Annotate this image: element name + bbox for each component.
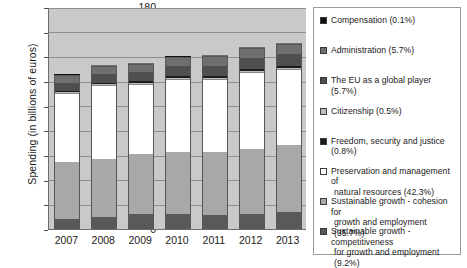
gridline <box>49 8 306 9</box>
bar-segment-competitiveness[interactable] <box>54 219 80 229</box>
bar-segment-global-player[interactable] <box>128 72 154 81</box>
legend-label: Compensation (0.1%) <box>331 15 415 26</box>
x-axis-tick-label: 2013 <box>266 234 310 246</box>
legend-swatch-icon <box>320 47 327 54</box>
bar-segment-cohesion[interactable] <box>128 154 154 214</box>
bar-segment-competitiveness[interactable] <box>128 214 154 229</box>
bar-segment-natural-resources[interactable] <box>202 79 228 152</box>
legend-swatch-icon <box>320 17 327 24</box>
bar-segment-administration[interactable] <box>239 47 265 58</box>
legend-label: The EU as a global player (5.7%) <box>331 75 455 96</box>
y-axis-title: Spending (in billions of euros) <box>26 14 38 214</box>
legend-label: Sustainable growth - competitivenessfor … <box>331 226 455 268</box>
legend-swatch-icon <box>320 77 327 84</box>
bar-segment-administration[interactable] <box>276 43 302 54</box>
bar-segment-competitiveness[interactable] <box>202 215 228 229</box>
legend-label: Administration (5.7%) <box>331 45 414 56</box>
bar-segment-competitiveness[interactable] <box>165 214 191 229</box>
bar-segment-administration[interactable] <box>165 57 191 67</box>
bar-segment-cohesion[interactable] <box>91 159 117 218</box>
legend-item[interactable]: Preservation and management ofnatural re… <box>320 166 455 196</box>
bar-segment-cohesion[interactable] <box>276 145 302 212</box>
bar-2012[interactable] <box>239 47 265 229</box>
bar-segment-administration[interactable] <box>128 63 154 72</box>
legend-item[interactable]: Sustainable growth - cohesion forgrowth … <box>320 196 455 226</box>
gridline <box>49 32 306 33</box>
legend-label: Preservation and management ofnatural re… <box>331 166 455 198</box>
legend-label: Citizenship (0.5%) <box>331 106 402 117</box>
bar-2010[interactable] <box>165 56 191 229</box>
legend-swatch-icon <box>320 228 327 235</box>
bar-segment-global-player[interactable] <box>165 66 191 76</box>
legend-item[interactable]: Freedom, security and justice (0.8%) <box>320 136 455 166</box>
bar-segment-natural-resources[interactable] <box>276 69 302 145</box>
bar-segment-global-player[interactable] <box>202 66 228 76</box>
legend-swatch-icon <box>320 198 327 205</box>
bar-2011[interactable] <box>202 55 228 229</box>
bar-2008[interactable] <box>91 65 117 229</box>
bar-segment-administration[interactable] <box>54 75 80 83</box>
legend-swatch-icon <box>320 138 327 145</box>
bar-segment-cohesion[interactable] <box>239 149 265 214</box>
bar-segment-cohesion[interactable] <box>165 152 191 214</box>
bar-segment-competitiveness[interactable] <box>91 217 117 229</box>
legend-item[interactable]: Administration (5.7%) <box>320 45 455 75</box>
bar-segment-competitiveness[interactable] <box>276 212 302 229</box>
y-axis-tick-mark <box>44 230 48 231</box>
bar-2009[interactable] <box>128 63 154 229</box>
bar-segment-natural-resources[interactable] <box>54 93 80 162</box>
bar-segment-natural-resources[interactable] <box>165 79 191 152</box>
bar-2013[interactable] <box>276 43 302 229</box>
bar-segment-global-player[interactable] <box>276 54 302 66</box>
chart-legend: Compensation (0.1%)Administration (5.7%)… <box>313 7 461 255</box>
bar-2007[interactable] <box>54 74 80 229</box>
bar-segment-cohesion[interactable] <box>54 162 80 219</box>
bar-segment-natural-resources[interactable] <box>91 85 117 159</box>
bar-segment-cohesion[interactable] <box>202 152 228 215</box>
bar-segment-natural-resources[interactable] <box>128 84 154 155</box>
bar-segment-global-player[interactable] <box>91 74 117 83</box>
bar-segment-natural-resources[interactable] <box>239 72 265 149</box>
bar-segment-administration[interactable] <box>202 55 228 65</box>
legend-item[interactable]: Citizenship (0.5%) <box>320 106 455 136</box>
bar-segment-administration[interactable] <box>91 65 117 74</box>
legend-label: Freedom, security and justice (0.8%) <box>331 136 455 157</box>
bar-segment-competitiveness[interactable] <box>239 214 265 229</box>
legend-swatch-icon <box>320 108 327 115</box>
plot-area <box>48 8 306 230</box>
legend-swatch-icon <box>320 168 327 175</box>
legend-item[interactable]: The EU as a global player (5.7%) <box>320 75 455 105</box>
bar-segment-global-player[interactable] <box>54 83 80 91</box>
legend-item[interactable]: Compensation (0.1%) <box>320 15 455 45</box>
legend-item[interactable]: Sustainable growth - competitivenessfor … <box>320 226 455 256</box>
bar-segment-global-player[interactable] <box>239 58 265 69</box>
